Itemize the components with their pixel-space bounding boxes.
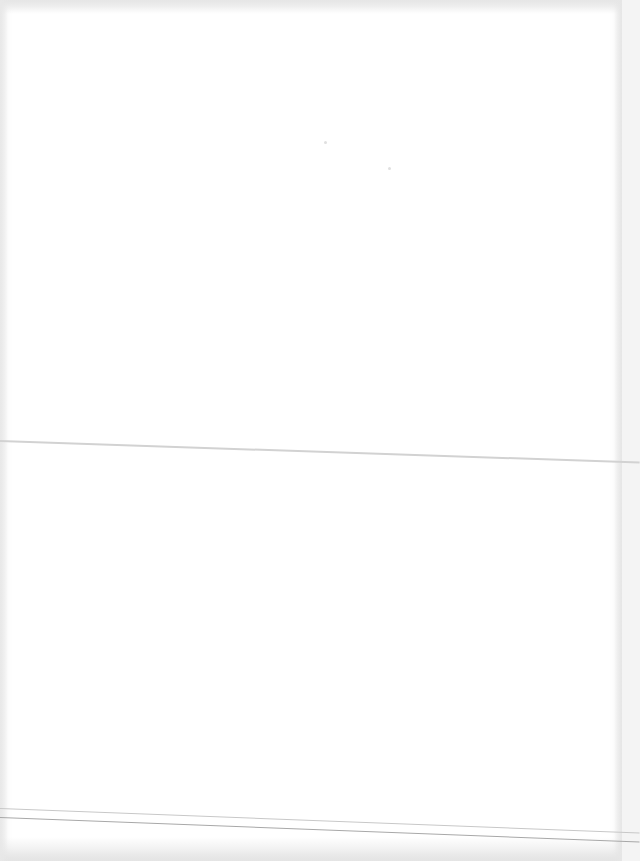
paper-speck xyxy=(324,141,327,144)
scan-edge-top xyxy=(0,0,622,14)
scan-edge-right xyxy=(614,0,622,861)
paper-speck xyxy=(388,167,391,170)
scan-edge-left xyxy=(0,0,8,861)
scan-edge-bottom xyxy=(0,837,622,861)
fold-line xyxy=(0,440,640,464)
